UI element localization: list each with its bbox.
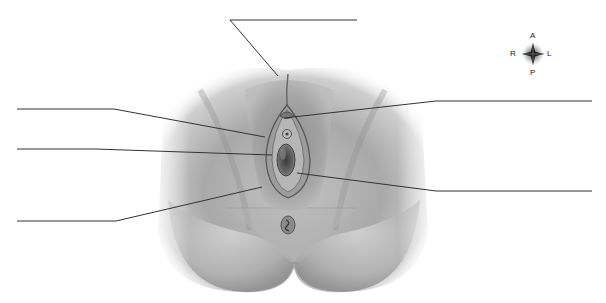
compass-label-posterior: P (530, 69, 535, 77)
compass-label-anterior: A (530, 32, 535, 40)
label-slot-top[interactable] (230, 8, 357, 20)
diagram-canvas: A P R L (0, 0, 606, 303)
compass-rose-icon (522, 43, 544, 65)
label-slot-left-2[interactable] (17, 137, 95, 149)
label-slot-left-1[interactable] (17, 97, 114, 109)
urethral-opening (283, 130, 292, 139)
compass-label-left: L (547, 50, 551, 58)
label-slot-right-1[interactable] (436, 89, 592, 101)
vaginal-opening (277, 144, 295, 176)
anatomy-illustration (0, 0, 606, 303)
anus (281, 216, 295, 234)
label-slot-right-2[interactable] (436, 179, 592, 191)
label-slot-left-3[interactable] (17, 209, 116, 221)
compass-label-right: R (510, 50, 516, 58)
leader-line-top (230, 20, 357, 76)
